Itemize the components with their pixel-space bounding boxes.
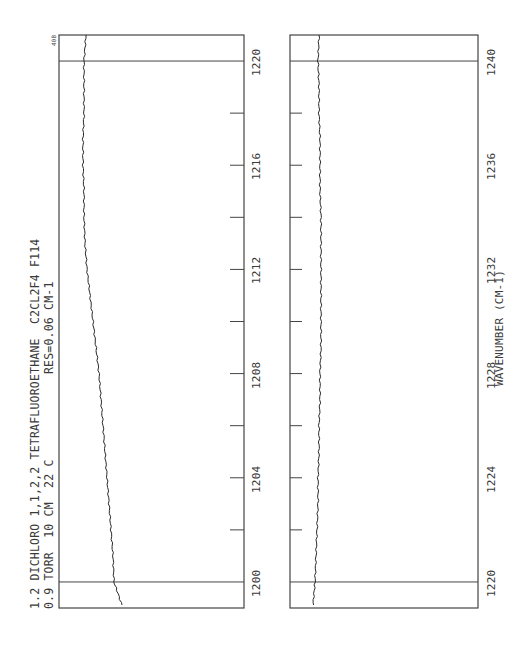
panel-frame bbox=[59, 35, 244, 608]
chart-title: 1.2 DICHLORO 1,1,2,2 TETRAFLUOROETHANE C… bbox=[28, 239, 42, 609]
tick-label: 1232 bbox=[485, 257, 498, 284]
spectrum-plot bbox=[0, 0, 531, 646]
panel-frame bbox=[290, 35, 478, 608]
tick-label: 1228 bbox=[485, 361, 498, 388]
tick-label: 1240 bbox=[485, 49, 498, 76]
conditions-label: 0.9 TORR 10 CM 22 C bbox=[42, 459, 56, 609]
spectrum-trace bbox=[313, 35, 322, 605]
spectrum-trace bbox=[82, 35, 122, 605]
corner-label: 408 bbox=[50, 35, 57, 46]
left-panel bbox=[59, 35, 244, 608]
tick-label: 1212 bbox=[250, 257, 263, 284]
tick-label: 1208 bbox=[250, 361, 263, 388]
right-panel bbox=[290, 35, 478, 608]
tick-label: 1204 bbox=[250, 465, 263, 492]
tick-label: 1200 bbox=[250, 570, 263, 597]
tick-label: 1220 bbox=[250, 49, 263, 76]
resolution-label: RES=0.06 CM-1 bbox=[42, 281, 56, 374]
tick-label: 1236 bbox=[485, 153, 498, 180]
tick-label: 1224 bbox=[485, 465, 498, 492]
tick-label: 1220 bbox=[485, 570, 498, 597]
tick-label: 1216 bbox=[250, 153, 263, 180]
